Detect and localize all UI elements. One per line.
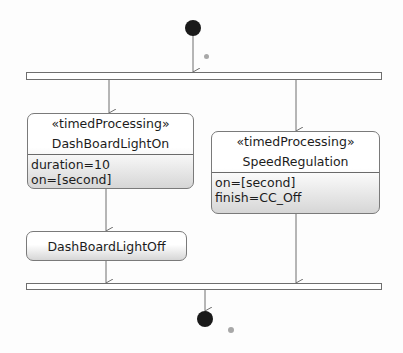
attribute-on: on=[second]: [31, 172, 190, 187]
action-speed-regulation[interactable]: «timedProcessing» SpeedRegulation on=[se…: [211, 131, 380, 214]
attributes-compartment: on=[second] finish=CC_Off: [212, 172, 379, 207]
action-dashboard-light-on[interactable]: «timedProcessing» DashBoardLightOn durat…: [27, 113, 194, 189]
action-dashboard-light-off[interactable]: DashBoardLightOff: [26, 231, 187, 261]
stereotype-label: «timedProcessing»: [28, 114, 193, 134]
action-name: SpeedRegulation: [212, 152, 379, 172]
initial-node-handle-dot: [204, 54, 209, 59]
join-bar[interactable]: [26, 283, 382, 290]
action-name: DashBoardLightOn: [28, 134, 193, 154]
attribute-finish: finish=CC_Off: [215, 190, 376, 205]
fork-bar[interactable]: [26, 72, 382, 80]
final-node-handle-dot: [228, 327, 234, 333]
attribute-on: on=[second]: [215, 175, 376, 190]
attributes-compartment: duration=10 on=[second]: [28, 154, 193, 189]
action-name: DashBoardLightOff: [47, 239, 165, 254]
stereotype-label: «timedProcessing»: [212, 132, 379, 152]
final-node[interactable]: [197, 311, 213, 327]
initial-node[interactable]: [185, 20, 201, 36]
attribute-duration: duration=10: [31, 157, 190, 172]
